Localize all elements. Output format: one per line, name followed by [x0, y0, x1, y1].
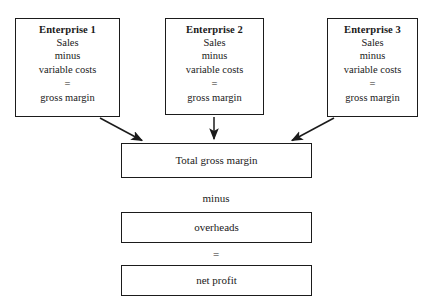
enterprise-3-sales: Sales — [361, 36, 383, 49]
enterprise-2-title: Enterprise 2 — [186, 23, 243, 36]
enterprise-1-equals: = — [65, 76, 71, 91]
enterprise-1-box: Enterprise 1 Sales minus variable costs … — [15, 18, 120, 117]
enterprise-3-box: Enterprise 3 Sales minus variable costs … — [327, 18, 418, 117]
total-gross-margin-box: Total gross margin — [121, 143, 312, 178]
enterprise-2-sales: Sales — [203, 36, 225, 49]
equals-connector-label: = — [0, 248, 432, 261]
net-profit-box: net profit — [121, 265, 312, 296]
enterprise-2-minus: minus — [202, 49, 228, 62]
enterprise-1-minus: minus — [55, 49, 81, 62]
enterprise-3-minus: minus — [360, 49, 386, 62]
enterprise-2-variable-costs: variable costs — [186, 63, 243, 76]
arrow-enterprise-1-to-total — [100, 118, 142, 141]
minus-connector-label: minus — [0, 192, 432, 205]
enterprise-1-variable-costs: variable costs — [39, 63, 96, 76]
enterprise-2-gross-margin: gross margin — [187, 91, 241, 104]
enterprise-1-title: Enterprise 1 — [39, 23, 96, 36]
overheads-label: overheads — [194, 221, 239, 234]
enterprise-3-gross-margin: gross margin — [345, 91, 399, 104]
enterprise-2-equals: = — [212, 76, 218, 91]
diagram-canvas: Enterprise 1 Sales minus variable costs … — [0, 0, 432, 308]
enterprise-2-box: Enterprise 2 Sales minus variable costs … — [165, 18, 264, 115]
enterprise-3-equals: = — [370, 76, 376, 91]
arrow-enterprise-3-to-total — [292, 118, 334, 141]
enterprise-3-variable-costs: variable costs — [344, 63, 401, 76]
enterprise-1-gross-margin: gross margin — [40, 91, 94, 104]
net-profit-label: net profit — [196, 274, 237, 287]
total-gross-margin-label: Total gross margin — [175, 154, 257, 167]
overheads-box: overheads — [121, 212, 312, 243]
enterprise-1-sales: Sales — [56, 36, 78, 49]
enterprise-3-title: Enterprise 3 — [344, 23, 401, 36]
